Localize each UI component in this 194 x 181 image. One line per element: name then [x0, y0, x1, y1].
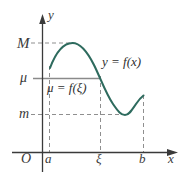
y-tick-label-M: M	[17, 36, 30, 51]
x-tick-label-b: b	[139, 152, 146, 165]
axes	[12, 14, 178, 172]
y-axis-label: y	[48, 8, 54, 21]
x-axis-label: x	[168, 152, 174, 165]
y-tick-label-m: m	[19, 107, 29, 121]
mean-value-theorem-figure: M μ m O a ξ b x y y = f(x) μ = f(ξ)	[0, 0, 194, 181]
mean-value-label: μ = f(ξ)	[47, 81, 87, 94]
y-axis-arrowhead	[39, 14, 46, 24]
origin-label: O	[21, 152, 31, 166]
y-tick-label-mu: μ	[20, 71, 27, 85]
x-tick-label-xi: ξ	[96, 152, 102, 165]
curve-label: y = f(x)	[102, 55, 141, 68]
x-tick-label-a: a	[45, 152, 52, 165]
